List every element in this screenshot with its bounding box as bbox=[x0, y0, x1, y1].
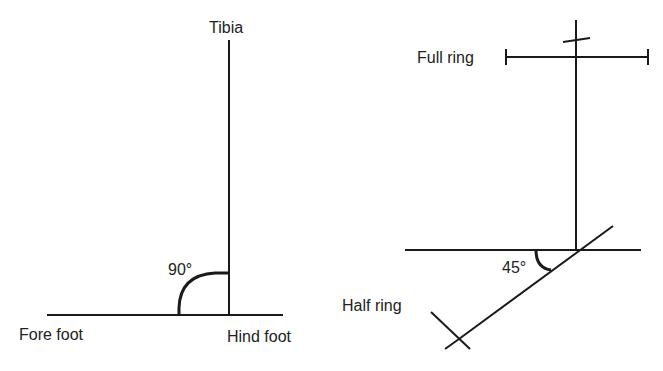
half-ring-label: Half ring bbox=[342, 298, 402, 314]
tibia-label: Tibia bbox=[209, 20, 243, 36]
diagram-canvas: Tibia 90° Fore foot Hind foot Full ring … bbox=[0, 0, 663, 371]
right-angle-arc bbox=[179, 273, 229, 315]
right-diagram bbox=[405, 20, 648, 349]
half-ring-cross-short bbox=[445, 339, 459, 349]
angle-90-label: 90° bbox=[168, 262, 192, 278]
full-ring-label: Full ring bbox=[417, 50, 474, 66]
half-ring-cross-bar bbox=[431, 312, 470, 349]
diagram-graphics bbox=[0, 0, 663, 371]
angle-45-label: 45° bbox=[502, 260, 526, 276]
hind-foot-label: Hind foot bbox=[227, 329, 291, 345]
half-ring-diagonal bbox=[459, 226, 613, 339]
left-diagram bbox=[47, 40, 283, 315]
forty-five-angle-arc bbox=[536, 250, 551, 270]
fore-foot-label: Fore foot bbox=[19, 327, 83, 343]
